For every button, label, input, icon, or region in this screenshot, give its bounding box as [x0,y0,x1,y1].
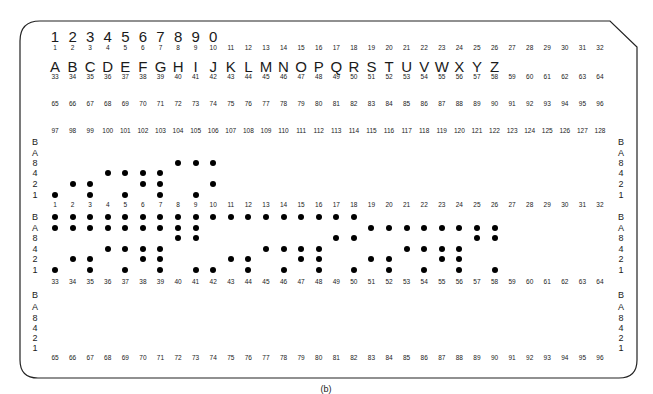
column-number: 124 [524,128,535,135]
column-number: 108 [243,128,254,135]
column-number: 43 [227,279,234,286]
punch-hole [52,225,58,231]
column-number: 50 [350,74,357,81]
letter-char: F [138,59,147,74]
punch-hole [122,170,128,176]
letter-char: S [366,59,376,74]
column-number: 28 [526,202,533,209]
column-number: 35 [87,74,94,81]
column-number: 21 [403,45,410,52]
punch-hole [157,192,163,198]
bit-label-left: 8 [32,314,37,323]
column-number: 33 [51,74,58,81]
column-number: 42 [210,74,217,81]
letter-char: X [454,59,464,74]
column-number: 115 [366,128,376,135]
punch-hole [193,214,199,220]
column-number: 98 [69,128,76,135]
column-number: 23 [438,45,445,52]
digit-char: 7 [156,29,164,44]
column-number: 67 [87,355,94,362]
column-number: 32 [596,45,603,52]
column-number: 37 [122,279,129,286]
column-number: 128 [595,128,606,135]
column-number: 62 [561,74,568,81]
letter-char: L [244,59,252,74]
punch-hole [122,214,128,220]
column-number: 117 [401,128,411,135]
column-number: 1 [53,202,57,209]
column-number: 79 [297,101,304,108]
punch-hole [492,225,498,231]
column-number: 31 [579,202,586,209]
column-number: 64 [596,279,603,286]
column-number: 65 [51,101,58,108]
column-number: 38 [139,74,146,81]
column-number: 31 [579,45,586,52]
column-number: 54 [421,279,428,286]
column-number: 44 [245,74,252,81]
column-number: 19 [368,45,375,52]
column-number: 81 [333,355,340,362]
column-number: 13 [262,45,269,52]
punch-hole [157,267,163,273]
punch-hole [140,256,146,262]
letter-char: K [226,59,236,74]
column-number: 56 [456,279,463,286]
column-number: 50 [350,279,357,286]
column-number: 14 [280,45,287,52]
punch-hole [210,214,216,220]
column-number: 71 [157,355,164,362]
punch-hole [456,246,462,252]
column-number: 84 [385,101,392,108]
punch-hole [228,256,234,262]
letter-char: Z [490,59,499,74]
digit-char: 2 [68,29,76,44]
column-number: 104 [173,128,184,135]
column-number: 86 [421,355,428,362]
column-number: 106 [208,128,219,135]
punch-hole [368,256,374,262]
column-number: 72 [174,355,181,362]
punch-hole [492,235,498,241]
punch-hole [474,225,480,231]
column-number: 82 [350,355,357,362]
letter-char: V [419,59,429,74]
column-number: 20 [385,202,392,209]
column-number: 61 [544,279,551,286]
punch-hole [456,256,462,262]
punch-hole [474,235,480,241]
punch-hole [316,267,322,273]
column-number: 94 [561,101,568,108]
bit-label-left: 2 [32,255,37,264]
punch-hole [245,267,251,273]
punch-hole [193,235,199,241]
punch-hole [298,246,304,252]
column-number: 79 [297,355,304,362]
column-number: 18 [350,45,357,52]
column-number: 37 [122,74,129,81]
bit-label-left: 4 [32,245,37,254]
column-number: 66 [69,355,76,362]
column-number: 24 [456,202,463,209]
column-number: 12 [245,45,252,52]
punch-hole [281,246,287,252]
column-number: 59 [508,74,515,81]
bit-label-left: 4 [32,324,37,333]
bit-label-right: 4 [618,324,623,333]
column-number: 49 [333,74,340,81]
bit-label-right: 8 [618,159,623,168]
column-number: 101 [120,128,131,135]
column-number: 25 [473,202,480,209]
column-number: 7 [159,45,163,52]
column-number: 27 [508,202,515,209]
column-number: 71 [157,101,164,108]
column-number: 125 [542,128,553,135]
letter-char: J [209,59,217,74]
bit-label-right: 8 [618,314,623,323]
bit-label-left: 1 [32,344,37,353]
punch-hole [351,235,357,241]
column-number: 39 [157,74,164,81]
column-number: 93 [544,355,551,362]
column-number: 23 [438,202,445,209]
